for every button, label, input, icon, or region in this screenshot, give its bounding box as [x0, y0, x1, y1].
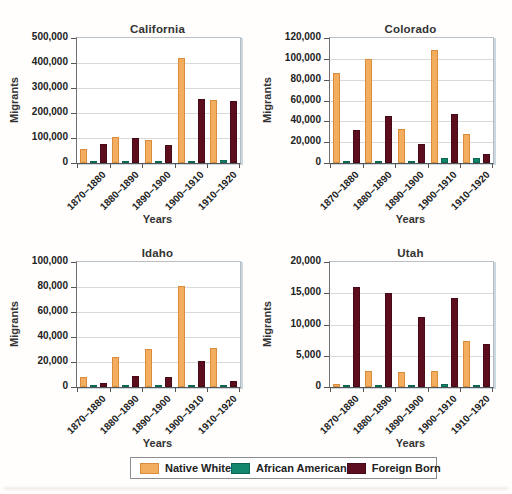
- bar-native-white-1890-1900: [398, 372, 405, 387]
- x-tick-mark: [239, 164, 240, 168]
- y-tick-mark: [324, 80, 329, 81]
- y-axis: 0100,000200,000300,000400,000500,000: [0, 37, 68, 162]
- bar-foreign-born-1890-1900: [418, 317, 425, 387]
- bar-native-white-1900-1910: [431, 50, 438, 163]
- legend: Native White African American Foreign Bo…: [130, 457, 437, 479]
- y-tick-mark: [71, 38, 76, 39]
- y-tick-label: 200,000: [0, 106, 68, 118]
- bar-native-white-1870-1880: [80, 149, 87, 163]
- bar-foreign-born-1900-1910: [198, 361, 205, 387]
- bar-foreign-born-1880-1890: [132, 138, 139, 163]
- legend-item-african-american: African American: [231, 462, 347, 474]
- y-tick-mark: [324, 325, 329, 326]
- y-tick-mark: [71, 63, 76, 64]
- bar-foreign-born-1880-1890: [385, 293, 392, 387]
- y-tick-label: 300,000: [0, 81, 68, 93]
- x-axis-title: Years: [329, 213, 492, 225]
- y-tick-mark: [71, 138, 76, 139]
- y-tick-label: 60,000: [0, 305, 68, 317]
- y-tick-mark: [324, 59, 329, 60]
- gridline: [330, 80, 493, 81]
- x-tick-mark: [492, 164, 493, 168]
- plot-area: [329, 37, 494, 164]
- chart-california: California Migrants 0100,000200,000300,0…: [0, 8, 253, 232]
- bar-foreign-born-1870-1880: [353, 287, 360, 387]
- gridline: [77, 88, 240, 89]
- y-tick-label: 80,000: [0, 280, 68, 292]
- gridline: [77, 287, 240, 288]
- bar-native-white-1890-1900: [145, 140, 152, 163]
- chart-utah: Utah Migrants 05,00010,00015,00020,000 1…: [253, 232, 506, 456]
- bar-native-white-1900-1910: [178, 58, 185, 163]
- y-tick-mark: [324, 121, 329, 122]
- chart-title: Idaho: [76, 247, 239, 259]
- y-tick-mark: [71, 337, 76, 338]
- y-tick-mark: [324, 356, 329, 357]
- y-tick-label: 100,000: [253, 52, 321, 64]
- bar-native-white-1910-1920: [210, 348, 217, 387]
- x-axis: 1870–18801880–18901890–19001900–19101910…: [76, 162, 239, 214]
- bar-native-white-1880-1890: [365, 371, 372, 387]
- y-tick-mark: [324, 262, 329, 263]
- page-scan-artifact: [4, 487, 508, 490]
- legend-item-foreign-born: Foreign Born: [347, 462, 441, 474]
- legend-item-native-white: Native White: [140, 462, 231, 474]
- chart-title: California: [76, 23, 239, 35]
- y-tick-label: 5,000: [253, 349, 321, 361]
- bar-foreign-born-1900-1910: [451, 114, 458, 163]
- gridline: [330, 121, 493, 122]
- y-tick-mark: [71, 312, 76, 313]
- y-tick-mark: [324, 142, 329, 143]
- native-white-swatch: [140, 463, 159, 474]
- plot-area: [76, 37, 241, 164]
- x-axis: 1870–18801880–18901890–19001900–19101910…: [329, 386, 492, 438]
- bar-native-white-1870-1880: [333, 73, 340, 163]
- gridline: [77, 337, 240, 338]
- y-tick-label: 100,000: [0, 131, 68, 143]
- chart-title: Utah: [329, 247, 492, 259]
- y-axis: 05,00010,00015,00020,000: [253, 261, 321, 386]
- y-tick-label: 0: [0, 380, 68, 392]
- y-tick-label: 0: [0, 156, 68, 168]
- y-axis: 020,00040,00060,00080,000100,000: [0, 261, 68, 386]
- x-axis-title: Years: [76, 437, 239, 449]
- chart-title: Colorado: [329, 23, 492, 35]
- bar-native-white-1910-1920: [463, 341, 470, 387]
- bar-foreign-born-1890-1900: [165, 145, 172, 163]
- y-tick-label: 400,000: [0, 56, 68, 68]
- y-tick-label: 10,000: [253, 318, 321, 330]
- legend-label: Native White: [165, 462, 231, 474]
- x-axis-title: Years: [329, 437, 492, 449]
- y-tick-label: 20,000: [253, 255, 321, 267]
- gridline: [77, 63, 240, 64]
- bar-native-white-1900-1910: [178, 286, 185, 387]
- x-axis: 1870–18801880–18901890–19001900–19101910…: [76, 386, 239, 438]
- bar-foreign-born-1870-1880: [100, 144, 107, 163]
- y-tick-label: 60,000: [253, 94, 321, 106]
- legend-label: Foreign Born: [372, 462, 441, 474]
- plot-area: [329, 261, 494, 388]
- bar-native-white-1900-1910: [431, 371, 438, 387]
- y-tick-mark: [71, 362, 76, 363]
- y-tick-label: 80,000: [253, 73, 321, 85]
- y-tick-mark: [71, 88, 76, 89]
- bar-native-white-1910-1920: [210, 100, 217, 163]
- bar-native-white-1880-1890: [112, 137, 119, 163]
- bar-foreign-born-1910-1920: [230, 101, 237, 163]
- bar-native-white-1890-1900: [145, 349, 152, 387]
- bar-foreign-born-1870-1880: [353, 130, 360, 163]
- y-axis: 020,00040,00060,00080,000100,000120,000: [253, 37, 321, 162]
- gridline: [330, 59, 493, 60]
- foreign-born-swatch: [347, 463, 366, 474]
- y-tick-label: 20,000: [253, 135, 321, 147]
- y-tick-mark: [71, 262, 76, 263]
- y-tick-mark: [71, 287, 76, 288]
- x-axis: 1870–18801880–18901890–19001900–19101910…: [329, 162, 492, 214]
- bar-foreign-born-1890-1900: [418, 144, 425, 163]
- y-tick-label: 0: [253, 156, 321, 168]
- chart-colorado: Colorado Migrants 020,00040,00060,00080,…: [253, 8, 506, 232]
- y-tick-label: 100,000: [0, 255, 68, 267]
- y-tick-mark: [324, 293, 329, 294]
- y-tick-mark: [324, 38, 329, 39]
- gridline: [330, 101, 493, 102]
